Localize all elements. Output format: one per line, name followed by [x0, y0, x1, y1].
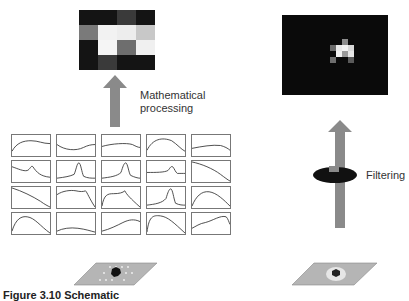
pixel [98, 55, 117, 70]
pixel [98, 25, 117, 40]
spectrum-plot [101, 186, 141, 209]
spectrum-plot [191, 186, 231, 209]
pixel [330, 57, 336, 63]
pixel [79, 25, 98, 40]
spectrum-plot [146, 186, 186, 209]
pixel [79, 10, 98, 25]
spectrum-plot [56, 134, 96, 157]
spectrum-plot [146, 160, 186, 183]
figure-caption: Figure 3.10 Schematic [3, 289, 119, 301]
spectrum-plot [191, 212, 231, 235]
pixel [136, 10, 155, 25]
spectrum-plot [191, 160, 231, 183]
spectrum-plot [101, 212, 141, 235]
spectrum-plot [56, 212, 96, 235]
spectra-grid [11, 134, 231, 235]
label-line-1: Mathematical [140, 89, 205, 102]
spectrum-plot [11, 134, 51, 157]
spectrum-plot [191, 134, 231, 157]
spectrum-plot [101, 134, 141, 157]
spectrum-plot [101, 160, 141, 183]
pixel [98, 40, 117, 55]
pixel [117, 40, 136, 55]
spectrum-plot [146, 212, 186, 235]
spectrum-plot [11, 186, 51, 209]
pixel [79, 55, 98, 70]
pixel [348, 57, 354, 63]
sample-plane-dotted [74, 262, 158, 286]
pixel [79, 40, 98, 55]
spectrum-plot [11, 212, 51, 235]
pixel [117, 55, 136, 70]
mathematical-processing-label: Mathematical processing [140, 89, 205, 115]
pixel [117, 10, 136, 25]
pixel [98, 10, 117, 25]
pixel [117, 25, 136, 40]
filtered-image-right [282, 15, 388, 95]
pixel [136, 55, 155, 70]
sample-plane-halo [292, 262, 378, 286]
filter-disc-icon [312, 166, 358, 184]
pixel [136, 25, 155, 40]
pixel [136, 40, 155, 55]
arrow-up-icon [103, 75, 127, 127]
spectrum-plot [56, 186, 96, 209]
label-line-2: processing [140, 102, 205, 115]
spectrum-plot [146, 134, 186, 157]
spectrum-plot [56, 160, 96, 183]
spectrum-plot [11, 160, 51, 183]
processed-image-left [79, 10, 155, 70]
filtering-label: Filtering [366, 169, 405, 182]
